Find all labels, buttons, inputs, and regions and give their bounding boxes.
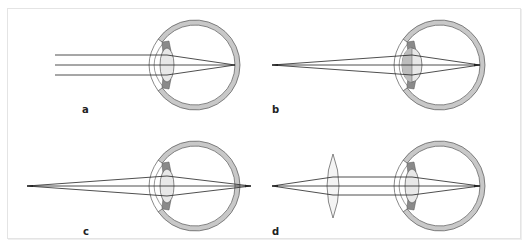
panel-c: [27, 141, 251, 231]
panel-label-c: c: [83, 226, 89, 237]
ray-top: [55, 55, 235, 65]
panel-label-d: d: [272, 226, 279, 237]
ray-bottom: [27, 186, 251, 196]
ray-bottom: [55, 65, 235, 75]
object-point: [27, 185, 33, 187]
panel-label-b: b: [272, 104, 279, 115]
panel-d: [272, 141, 485, 231]
panel-b: [272, 20, 485, 110]
panel-label-a: a: [82, 104, 89, 115]
ray-bottom: [272, 65, 480, 75]
ray-top: [272, 55, 480, 65]
eye-optics-diagram: a b c d: [0, 0, 529, 245]
ray-top: [272, 177, 480, 186]
object-point: [272, 64, 278, 66]
focal-point: [245, 185, 251, 187]
ray-top: [27, 176, 251, 186]
focal-point: [474, 185, 480, 187]
ray-bottom: [272, 186, 480, 195]
panel-a: [55, 20, 240, 110]
